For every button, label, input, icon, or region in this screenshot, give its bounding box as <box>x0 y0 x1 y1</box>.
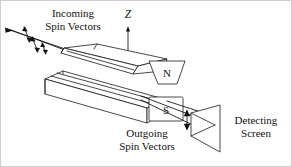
magnet-top <box>61 44 167 74</box>
incoming-spin-vector-3 <box>40 42 48 54</box>
magnet-bottom <box>45 71 164 123</box>
figure-canvas: Z <box>1 1 292 167</box>
incoming-label-line2: Spin Vectors <box>45 20 101 32</box>
spin-vector-head-down <box>34 47 40 52</box>
spin-vector-head-up <box>22 26 28 31</box>
detecting-screen-label: Detecting Screen <box>235 114 278 139</box>
incoming-label-line1: Incoming <box>52 7 95 19</box>
north-pole-label: N <box>163 67 171 79</box>
z-axis-label: Z <box>125 8 132 20</box>
outgoing-label-line2: Spin Vectors <box>119 140 175 152</box>
outgoing-label: Outgoing Spin Vectors <box>119 127 175 152</box>
outgoing-label-line1: Outgoing <box>126 127 168 139</box>
incoming-beam-tip-arrow <box>5 28 13 33</box>
screen-label-line1: Detecting <box>235 114 278 126</box>
incoming-label: Incoming Spin Vectors <box>45 7 101 32</box>
detecting-screen-shape <box>191 105 220 152</box>
north-pole: N <box>149 61 185 84</box>
detecting-screen <box>191 105 220 152</box>
stern-gerlach-figure: Z <box>0 0 292 167</box>
spin-vector-head-down <box>43 50 48 55</box>
spin-vector-head-up <box>40 42 45 47</box>
screen-label-line2: Screen <box>241 127 271 139</box>
outgoing-spin-head-down <box>184 124 190 131</box>
